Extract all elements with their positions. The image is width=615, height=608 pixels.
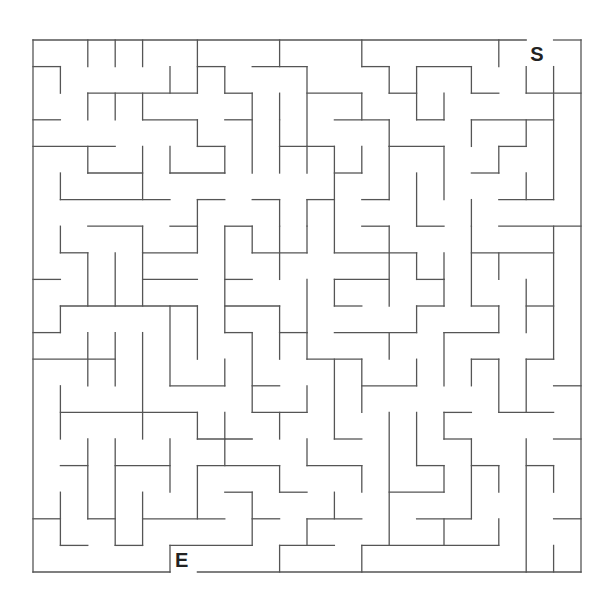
start-marker: S xyxy=(530,44,543,64)
end-marker: E xyxy=(175,550,188,570)
maze-board xyxy=(0,0,615,608)
